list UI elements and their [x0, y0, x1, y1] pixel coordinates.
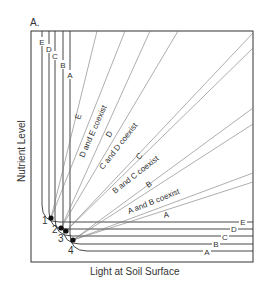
h-label-E: E	[240, 218, 245, 227]
point-1	[48, 215, 53, 220]
boundary-lines	[51, 31, 253, 240]
h-label-A: A	[204, 248, 210, 257]
region-A: A	[163, 210, 170, 220]
region-E: E	[73, 113, 83, 121]
h-label-D: D	[231, 225, 237, 234]
region-CD: C and D coexist	[97, 121, 139, 172]
point-4	[70, 237, 75, 242]
v-label-E: E	[39, 38, 44, 47]
resource-competition-diagram: 1 2 3 4 E D C B A E D C B A E D and E co…	[0, 0, 269, 281]
point-label-4: 4	[68, 245, 74, 256]
h-label-B: B	[213, 240, 218, 249]
region-D: D	[104, 129, 115, 139]
v-label-A: A	[67, 71, 73, 80]
region-C: C	[134, 151, 145, 162]
point-3	[63, 228, 68, 233]
v-label-C: C	[52, 52, 58, 61]
point-2	[58, 225, 63, 230]
region-B: B	[144, 179, 153, 189]
point-label-3: 3	[58, 233, 64, 244]
region-AB: A and B coexist	[126, 187, 181, 216]
isoclines	[42, 31, 253, 251]
panel-label: A.	[30, 17, 39, 28]
isocline-A	[70, 31, 253, 251]
x-axis-label: Light at Soil Surface	[90, 266, 180, 277]
region-BC: B and C coexist	[111, 154, 161, 196]
point-label-1: 1	[42, 215, 48, 226]
y-axis-label: Nutrient Level	[16, 120, 27, 182]
h-label-C: C	[222, 233, 228, 242]
v-label-B: B	[60, 61, 65, 70]
